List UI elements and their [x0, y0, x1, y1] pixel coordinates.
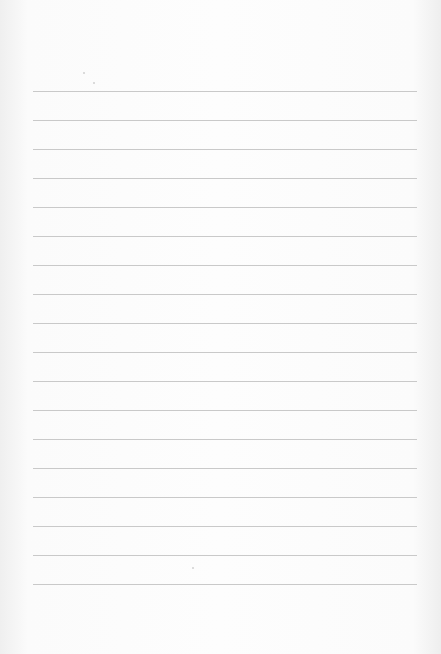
ruled-line [33, 120, 417, 121]
paper-speck [83, 72, 85, 74]
ruled-line [33, 236, 417, 237]
ruled-line [33, 323, 417, 324]
ruled-line [33, 526, 417, 527]
ruled-paper [0, 0, 441, 654]
ruled-line [33, 497, 417, 498]
ruled-line [33, 352, 417, 353]
ruled-line [33, 381, 417, 382]
paper-speck [93, 82, 95, 84]
ruled-line [33, 584, 417, 585]
ruled-line [33, 207, 417, 208]
paper-speck [192, 567, 194, 569]
ruled-line [33, 410, 417, 411]
ruled-line [33, 555, 417, 556]
ruled-line [33, 91, 417, 92]
ruled-line [33, 439, 417, 440]
ruled-line [33, 294, 417, 295]
ruled-line [33, 468, 417, 469]
ruled-line [33, 265, 417, 266]
ruled-line [33, 178, 417, 179]
ruled-line [33, 149, 417, 150]
